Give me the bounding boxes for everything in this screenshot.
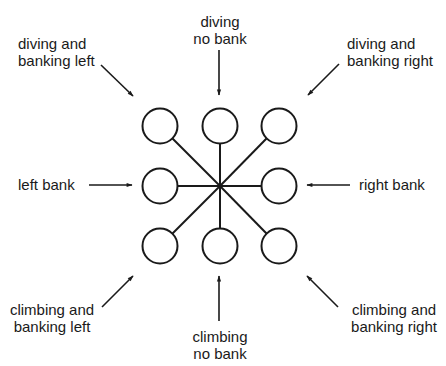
circle-bottom-right bbox=[262, 229, 297, 264]
label-diving-banking-right: diving and banking right bbox=[347, 35, 433, 69]
label-line: banking right bbox=[342, 318, 446, 335]
label-line: left bank bbox=[18, 176, 75, 193]
label-line: climbing and bbox=[342, 301, 446, 318]
label-left-bank: left bank bbox=[18, 176, 75, 193]
arrow-climbing-banking-left bbox=[102, 276, 133, 307]
label-line: climbing bbox=[180, 328, 260, 345]
label-line: banking left bbox=[18, 52, 95, 69]
circle-top-center bbox=[203, 109, 238, 144]
label-line: no bank bbox=[180, 30, 260, 47]
circle-bottom-center bbox=[203, 229, 238, 264]
center-dot bbox=[218, 184, 222, 188]
circle-middle-right bbox=[262, 169, 297, 204]
label-line: diving and bbox=[347, 35, 433, 52]
spoke-top-right bbox=[220, 138, 267, 186]
label-right-bank: right bank bbox=[359, 176, 425, 193]
label-diving-no-bank: diving no bank bbox=[180, 13, 260, 47]
label-line: no bank bbox=[180, 345, 260, 362]
label-line: diving bbox=[180, 13, 260, 30]
arrow-climbing-banking-right bbox=[307, 276, 338, 307]
label-line: banking right bbox=[347, 52, 433, 69]
label-climbing-banking-right: climbing and banking right bbox=[342, 301, 446, 335]
label-line: right bank bbox=[359, 176, 425, 193]
label-diving-banking-left: diving and banking left bbox=[18, 35, 95, 69]
circle-middle-left bbox=[143, 169, 178, 204]
arrow-diving-banking-right bbox=[308, 64, 339, 95]
label-climbing-banking-left: climbing and banking left bbox=[2, 301, 102, 335]
label-line: diving and bbox=[18, 35, 95, 52]
arrow-diving-banking-left bbox=[101, 65, 133, 96]
circle-top-right bbox=[262, 109, 297, 144]
circle-bottom-left bbox=[143, 229, 178, 264]
circle-top-left bbox=[143, 109, 178, 144]
spoke-bottom-left bbox=[172, 186, 220, 234]
spoke-bottom-right bbox=[220, 186, 267, 234]
label-line: climbing and bbox=[2, 301, 102, 318]
label-line: banking left bbox=[2, 318, 102, 335]
label-climbing-no-bank: climbing no bank bbox=[180, 328, 260, 362]
spoke-top-left bbox=[172, 138, 220, 186]
